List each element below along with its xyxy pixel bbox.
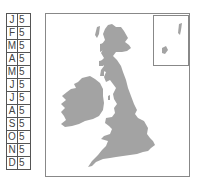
orkney-shape [162,46,168,54]
islay-shape [100,70,104,76]
hebrides-shape [95,26,100,38]
british-isles-map [0,0,199,184]
ireland-shape [61,76,104,127]
isle-of-man-shape [108,95,110,100]
shetland-shape [178,23,182,35]
